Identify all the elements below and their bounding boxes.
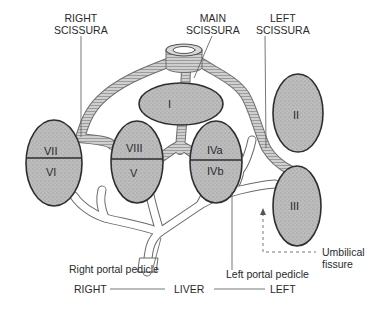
left-portal-pedicle-label: Left portal pedicle [226, 268, 309, 280]
portal-pedicle-tree [74, 140, 275, 272]
segment-IVa-IVb [190, 121, 242, 203]
right-portal-pedicle-label: Right portal pedicle [69, 263, 159, 275]
segment-VII-VI [26, 120, 82, 206]
segment-II: II [273, 74, 323, 152]
segment-V-label: V [130, 167, 138, 179]
segment-VI-label: VI [46, 166, 56, 178]
axis-liver-label: LIVER [174, 283, 204, 295]
svg-text:I: I [168, 98, 171, 110]
svg-text:II: II [293, 109, 299, 121]
segment-VIII-V [111, 121, 163, 203]
segment-IVa-label: IVa [207, 144, 224, 156]
umbilical-fissure-label: Umbilical fissure [322, 246, 365, 270]
segment-VII-label: VII [44, 145, 57, 157]
left-scissura-label: LEFT SCISSURA [256, 12, 310, 36]
axis-right-label: RIGHT [74, 283, 107, 295]
svg-text:III: III [290, 200, 299, 212]
axis-left-label: LEFT [270, 283, 296, 295]
liver-segment-diagram: I VII VI VIII V IVa IVb II III [0, 0, 382, 313]
right-scissura-label: RIGHT SCISSURA [54, 12, 108, 36]
segment-VIII-label: VIII [126, 142, 143, 154]
segment-I: I [139, 83, 223, 125]
arrow-up-icon [260, 208, 266, 215]
segment-III: III [273, 166, 321, 246]
segment-IVb-label: IVb [207, 165, 224, 177]
main-scissura-label: MAIN SCISSURA [186, 12, 240, 36]
